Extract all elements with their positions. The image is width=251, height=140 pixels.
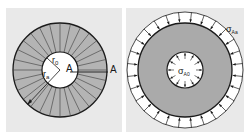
label-point-a-inner: A — [66, 63, 73, 74]
stress-diagram: r0 ra A A σA0 σAa — [0, 0, 251, 140]
label-point-a-outer: A — [110, 64, 117, 75]
right-panel: σA0 σAa — [127, 12, 243, 128]
